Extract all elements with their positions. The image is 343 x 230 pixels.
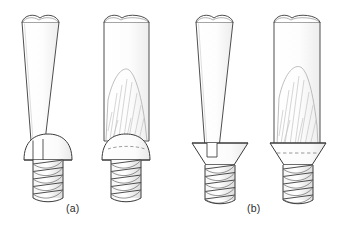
threaded-shank	[111, 160, 141, 202]
threaded-shank	[33, 160, 63, 202]
parallel-blade-b-right	[274, 15, 320, 146]
shank-body	[283, 165, 313, 200]
screwdriver-screw-engagement-diagram	[0, 0, 343, 230]
screw-drive-slot	[33, 139, 43, 160]
screw-drive-slot	[207, 143, 217, 157]
caption-label-b: (b)	[247, 202, 260, 214]
shank-body	[205, 165, 235, 200]
caption-label-a: (a)	[66, 202, 79, 214]
blade-body	[274, 22, 320, 146]
threaded-shank	[283, 165, 313, 204]
threaded-shank	[205, 165, 235, 204]
parallel-blade-a-right	[104, 15, 149, 141]
technical-figure: (a) (b)	[0, 0, 343, 230]
